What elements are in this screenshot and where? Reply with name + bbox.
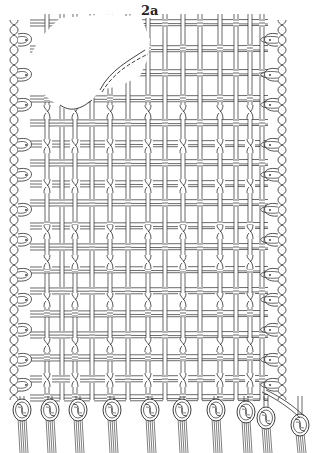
knotted-fringe xyxy=(13,390,309,453)
weave-drawing xyxy=(0,0,312,453)
textile-figure: 2a xyxy=(0,0,312,453)
figure-label: 2a xyxy=(140,3,159,18)
